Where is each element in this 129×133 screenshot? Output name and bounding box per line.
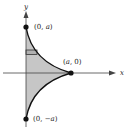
label-bottom: (0, −a) bbox=[33, 115, 58, 123]
region-diagram: y x (0, a) (a, 0) (0, −a) bbox=[0, 0, 129, 133]
x-axis-label: x bbox=[120, 69, 124, 77]
point-top bbox=[23, 24, 28, 29]
label-right: (a, 0) bbox=[63, 58, 82, 66]
y-axis-label: y bbox=[23, 3, 29, 11]
y-axis-arrow-icon bbox=[24, 11, 29, 18]
label-top: (0, a) bbox=[34, 23, 53, 31]
point-bottom bbox=[23, 116, 28, 121]
point-right bbox=[68, 70, 73, 75]
x-axis-arrow-icon bbox=[109, 71, 116, 76]
